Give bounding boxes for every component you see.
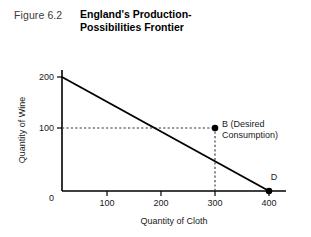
point-d-marker xyxy=(266,188,273,195)
point-b-marker xyxy=(212,125,219,132)
x-axis-title: Quantity of Cloth xyxy=(62,216,286,226)
y-tick-label-0: 0 xyxy=(24,193,54,203)
point-b-label: B (Desired Consumption) xyxy=(222,119,308,140)
x-tick-label-200: 200 xyxy=(146,198,176,208)
x-tick-label-400: 400 xyxy=(254,198,284,208)
y-tick-label-200: 200 xyxy=(24,72,54,82)
x-tick-label-300: 300 xyxy=(200,198,230,208)
x-tick-label-100: 100 xyxy=(92,198,122,208)
y-tick-label-100: 100 xyxy=(24,123,54,133)
ppf-chart: 200 100 0 100 200 300 400 Quantity of Cl… xyxy=(0,0,311,237)
point-d-label: D xyxy=(262,172,286,183)
y-axis-title: Quantity of Wine xyxy=(17,75,27,185)
